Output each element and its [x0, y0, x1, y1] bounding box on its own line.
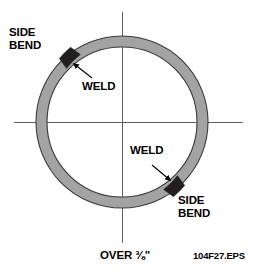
weld-leader-upper — [74, 64, 93, 79]
leader-line-upper — [74, 64, 93, 79]
side-bend-top-line1: SIDE — [9, 26, 41, 39]
pipe-weld-diagram: SIDE BEND SIDE BEND WELD WELD OVER ⅜" 10… — [0, 0, 258, 274]
weld-label-bottom: WELD — [130, 144, 163, 157]
eps-file-id: 104F27.EPS — [193, 251, 245, 262]
side-bend-bottom-line1: SIDE — [178, 194, 210, 207]
thickness-note: OVER ⅜" — [100, 249, 150, 262]
side-bend-label-bottom: SIDE BEND — [178, 194, 210, 220]
weld-label-top: WELD — [82, 80, 115, 93]
side-bend-top-line2: BEND — [9, 39, 41, 52]
side-bend-bottom-line2: BEND — [178, 207, 210, 220]
leader-line-lower — [152, 165, 171, 181]
weld-leader-lower — [152, 165, 171, 181]
side-bend-label-top: SIDE BEND — [9, 26, 41, 52]
